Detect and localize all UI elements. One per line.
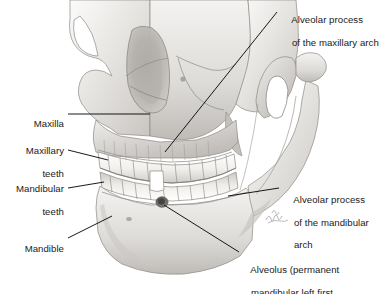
label-maxilla-line1: Maxilla [34,118,64,129]
label-alveolar-process-mandibular: Alveolar process of the mandibular arch [283,183,380,262]
infraorbital-foramen [180,76,185,81]
label-apmand-line2: of the mandibular [294,217,369,228]
label-mandibular-teeth: Mandibular teeth [0,172,64,228]
label-apmax-line1: Alveolar process [291,14,363,25]
label-mandible: Mandible [0,232,64,266]
label-mandible-line1: Mandible [25,243,64,254]
label-alveolus-line2: mandibular left first [251,287,333,294]
label-mandibular-teeth-line1: Mandibular [16,183,64,194]
label-apmand-line3: arch [294,239,313,250]
label-alveolus: Alveolus (permanent mandibular left firs… [240,253,380,294]
label-mandibular-teeth-line2: teeth [42,206,64,217]
mental-foramen [126,217,132,221]
label-alveolar-process-maxillary: Alveolar process of the maxillary arch [281,3,380,59]
label-maxillary-teeth-line1: Maxillary [26,145,64,156]
label-alveolus-line1: Alveolus (permanent [250,264,339,275]
mandibular-notch [266,76,288,118]
alveolus-socket-depth [158,199,165,205]
label-apmax-line2: of the maxillary arch [292,37,379,48]
opposing-tooth-in-gap [150,171,164,192]
anatomical-figure: Maxilla Maxillary teeth Mandibular teeth… [0,0,380,294]
label-apmand-line1: Alveolar process [293,194,365,205]
ramus-anterior-border [240,104,258,190]
leader-mandibular-teeth [68,182,104,188]
